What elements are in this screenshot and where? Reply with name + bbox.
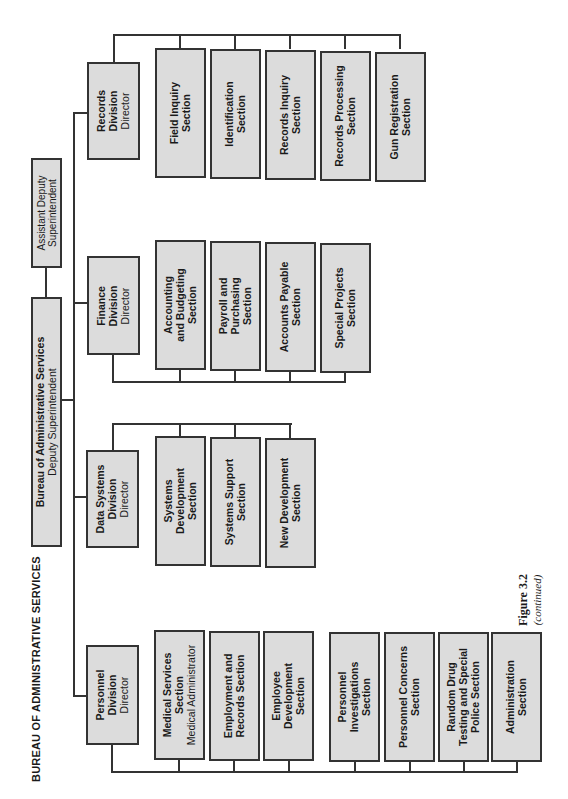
section-label: Section: [291, 262, 303, 352]
section-label: Police Section: [469, 648, 481, 746]
section-box: Personnel ConcernsSection: [384, 632, 435, 762]
section-label: New Development: [279, 458, 291, 548]
division-name: Division: [108, 90, 120, 132]
division-role: Director: [118, 670, 130, 721]
section-box: Payroll andPurchasingSection: [210, 241, 261, 371]
section-label: Section: [181, 82, 193, 144]
connector: [179, 423, 181, 437]
section-label: Section: [291, 458, 303, 548]
connector: [233, 760, 235, 772]
section-label: Section: [174, 645, 186, 745]
division-role: Director: [119, 285, 131, 326]
section-label: Section: [236, 459, 248, 545]
section-label: Section: [410, 646, 422, 748]
section-box: Gun RegistrationSection: [375, 52, 426, 182]
section-box: EmployeeDevelopmentSection: [263, 631, 314, 761]
connector: [112, 381, 346, 383]
section-box: SystemsDevelopmentSection: [155, 436, 206, 566]
section-label: Random Drug: [446, 648, 458, 746]
connector: [113, 34, 115, 62]
data-systems-division-box: Data Systems Division Director: [86, 450, 139, 548]
connector: [179, 34, 181, 49]
section-label: Administration: [505, 660, 517, 734]
section-label: Testing and Special: [458, 648, 470, 746]
assistant-line2: Superintendent: [47, 175, 58, 250]
spine-line: [73, 112, 75, 697]
section-label: Development: [283, 663, 295, 729]
assistant-line1: Assistant Deputy: [35, 175, 46, 250]
connector: [463, 762, 465, 772]
connector: [288, 760, 290, 772]
connector: [179, 369, 181, 382]
connector: [178, 760, 180, 772]
connector: [516, 762, 518, 773]
division-name: Division: [107, 465, 119, 534]
division-name: Division: [107, 670, 119, 721]
bureau-box: Bureau of Administrative Services Deputy…: [31, 297, 62, 547]
section-label: Investigations: [349, 662, 361, 733]
connector: [112, 423, 292, 425]
division-name: Finance: [96, 285, 108, 326]
chart-title: BUREAU OF ADMINISTRATIVE SERVICES: [30, 556, 42, 782]
section-box: AdministrationSection: [491, 632, 542, 762]
section-label: Section: [517, 660, 529, 734]
section-label: Section: [241, 277, 253, 334]
connector: [234, 423, 236, 438]
records-division-box: Records Division Director: [87, 62, 140, 160]
connector: [112, 355, 114, 383]
section-label: Section: [346, 267, 358, 348]
division-name: Personnel: [95, 670, 107, 721]
connector: [45, 268, 47, 298]
figure-caption: Figure 3.2 (continued): [516, 574, 545, 626]
section-label: Personnel: [337, 662, 349, 733]
section-label: Development: [175, 468, 187, 534]
section-label: Employee: [271, 663, 283, 729]
section-label: Systems Support: [224, 459, 236, 545]
connector: [234, 370, 236, 382]
connector: [289, 371, 291, 382]
section-label: Records Processing: [334, 65, 346, 167]
section-label: Purchasing: [230, 277, 242, 334]
section-label: Section: [346, 65, 358, 167]
section-box: Field InquirySection: [155, 48, 206, 178]
section-label: Section: [401, 74, 413, 159]
section-label: Section: [186, 468, 198, 534]
division-name: Division: [108, 285, 120, 326]
section-label: Section: [236, 81, 248, 146]
section-box: Systems SupportSection: [210, 437, 261, 567]
connector: [289, 423, 291, 438]
connector: [409, 762, 411, 772]
section-box: Records ProcessingSection: [320, 51, 371, 181]
section-label: and Budgeting: [175, 268, 187, 342]
division-name: Records: [96, 90, 108, 132]
assistant-deputy-box: Assistant Deputy Superintendent: [31, 158, 62, 268]
connector: [234, 34, 236, 49]
personnel-division-box: Personnel Division Director: [86, 645, 139, 745]
section-box: PersonnelInvestigationsSection: [329, 632, 380, 762]
section-label: Section: [360, 662, 372, 733]
section-box: Accountingand BudgetingSection: [155, 240, 206, 370]
connector: [111, 771, 517, 773]
section-label: Records Inquiry: [279, 75, 291, 155]
section-label: Accounts Payable: [279, 262, 291, 352]
finance-division-box: Finance Division Director: [87, 256, 140, 355]
section-label: Accounting: [163, 268, 175, 342]
section-box: Special ProjectsSection: [320, 243, 371, 373]
section-box: IdentificationSection: [210, 49, 261, 179]
section-label: Gun Registration: [389, 74, 401, 159]
connector: [344, 372, 346, 382]
section-label: Section: [294, 663, 306, 729]
figure-label: Figure 3.2: [516, 574, 531, 626]
section-label: Section: [186, 268, 198, 342]
section-box: Records InquirySection: [265, 50, 316, 180]
section-label: Identification: [224, 81, 236, 146]
division-role: Director: [118, 465, 130, 534]
bureau-role: Deputy Superintendent: [47, 337, 59, 508]
connector: [399, 34, 401, 49]
connector: [344, 34, 346, 49]
connector: [354, 762, 356, 772]
section-label: Special Projects: [334, 267, 346, 348]
section-label: Records Section: [235, 654, 247, 739]
division-name: Data Systems: [95, 465, 107, 534]
section-box: Random DrugTesting and SpecialPolice Sec…: [438, 632, 489, 762]
